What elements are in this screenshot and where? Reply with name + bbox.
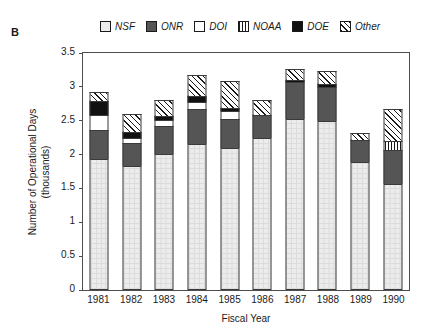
bar-segment-onr [285, 82, 304, 119]
x-tick-label: 1988 [312, 294, 345, 308]
bar-slot-1981 [83, 53, 116, 290]
bar-slot-1983 [148, 53, 181, 290]
legend-swatch-nsf-icon [100, 21, 111, 32]
y-tick-label: 1 [69, 215, 75, 226]
bar-segment-nsf [318, 121, 337, 290]
bar-segment-noaa [383, 141, 402, 150]
x-tick-label: 1990 [377, 294, 410, 308]
y-tick-label: 0 [69, 283, 75, 294]
plot-frame: Number of Operational Days (thousands) 0… [82, 52, 410, 291]
legend-label: ONR [161, 21, 183, 32]
bar-segment-onr [220, 119, 239, 147]
bar-slot-1987 [279, 53, 312, 290]
stacked-bar-1990[interactable] [383, 109, 402, 290]
x-tick-label: 1983 [148, 294, 181, 308]
bar-segment-other [383, 109, 402, 142]
y-tick-label: 3.5 [61, 46, 75, 57]
legend-item-noaa: NOAA [238, 21, 281, 32]
bar-segment-onr [155, 126, 174, 154]
bar-segment-nsf [220, 148, 239, 290]
plot-area: 00.511.522.533.5 [83, 53, 409, 290]
x-tick-label: 1987 [279, 294, 312, 308]
stacked-bar-1985[interactable] [220, 81, 239, 290]
stacked-bar-1984[interactable] [188, 75, 207, 290]
x-tick-label: 1986 [246, 294, 279, 308]
legend-label: NSF [115, 21, 135, 32]
stacked-bar-1983[interactable] [155, 100, 174, 290]
stacked-bar-1987[interactable] [285, 69, 304, 290]
y-axis-title: Number of Operational Days (thousands) [26, 108, 52, 235]
y-tick-label: 2.5 [61, 114, 75, 125]
bar-segment-onr [253, 115, 272, 138]
bar-segment-other [285, 69, 304, 80]
stacked-bar-1989[interactable] [351, 133, 370, 290]
bar-segment-doe [90, 101, 109, 115]
legend-swatch-onr-icon [146, 21, 157, 32]
bar-segment-doi [90, 115, 109, 130]
bar-slot-1986 [246, 53, 279, 290]
stacked-bar-1986[interactable] [253, 100, 272, 290]
bar-segment-doe [188, 96, 207, 103]
legend-label: DOE [307, 21, 329, 32]
legend-item-doe: DOE [292, 21, 329, 32]
legend-item-doi: DOI [194, 21, 227, 32]
bar-slot-1988 [311, 53, 344, 290]
y-tick-label: 2 [69, 148, 75, 159]
legend-swatch-other-icon [340, 21, 351, 32]
y-tick-label: 1.5 [61, 181, 75, 192]
bar-segment-onr [383, 150, 402, 184]
legend-swatch-noaa-icon [238, 21, 249, 32]
bar-segment-nsf [90, 159, 109, 290]
legend-swatch-doi-icon [194, 21, 205, 32]
legend-item-onr: ONR [146, 21, 183, 32]
bar-segment-other [220, 81, 239, 107]
stacked-bar-1988[interactable] [318, 71, 337, 290]
bar-slot-1984 [181, 53, 214, 290]
x-tick-label: 1981 [82, 294, 115, 308]
bar-slot-1990 [376, 53, 409, 290]
bar-segment-nsf [253, 138, 272, 290]
legend-label: Other [355, 21, 380, 32]
bar-segment-onr [318, 87, 337, 121]
bar-slot-1985 [213, 53, 246, 290]
bar-segment-other [351, 133, 370, 140]
x-tick-label: 1982 [115, 294, 148, 308]
x-tick-label: 1989 [344, 294, 377, 308]
bar-segment-onr [90, 130, 109, 159]
bar-segment-other [188, 75, 207, 95]
bar-segment-doi [220, 111, 239, 119]
chart-legend: NSFONRDOINOAADOEOther [100, 18, 380, 34]
x-tick-label: 1985 [213, 294, 246, 308]
bar-segment-onr [188, 109, 207, 144]
y-axis-title-line2: (thousands) [39, 108, 52, 235]
bar-segment-other [318, 71, 337, 84]
legend-swatch-doe-icon [292, 21, 303, 32]
panel-label: B [11, 26, 19, 38]
legend-item-other: Other [340, 21, 380, 32]
bar-segment-doi [188, 102, 207, 109]
legend-label: DOI [209, 21, 227, 32]
bar-segment-other [155, 100, 174, 116]
bar-segment-nsf [122, 166, 141, 290]
legend-item-nsf: NSF [100, 21, 135, 32]
bar-segment-nsf [383, 184, 402, 290]
bar-segment-nsf [351, 162, 370, 290]
x-tick-label: 1984 [180, 294, 213, 308]
bar-segment-other [253, 100, 272, 115]
legend-label: NOAA [253, 21, 281, 32]
y-tick-label: 0.5 [61, 249, 75, 260]
x-axis-tick-labels: 1981198219831984198519861987198819891990 [82, 294, 410, 308]
bar-segment-nsf [155, 154, 174, 290]
bar-segment-other [90, 92, 109, 101]
bar-segment-nsf [188, 144, 207, 290]
bar-segment-onr [122, 143, 141, 166]
x-axis-title: Fiscal Year [82, 313, 410, 324]
bar-segment-nsf [285, 119, 304, 290]
bar-slot-1989 [344, 53, 377, 290]
stacked-bar-1981[interactable] [90, 92, 109, 290]
bar-group [83, 53, 409, 290]
bar-segment-onr [351, 140, 370, 162]
y-tick-label: 3 [69, 80, 75, 91]
stacked-bar-1982[interactable] [122, 114, 141, 290]
y-axis-title-line1: Number of Operational Days [26, 108, 39, 235]
